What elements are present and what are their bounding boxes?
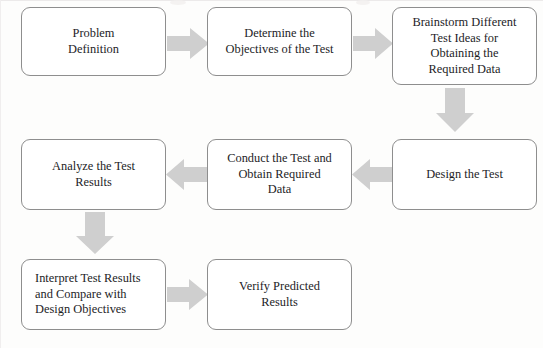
scan-artifact-top-edge <box>0 0 543 1</box>
node-problem-definition[interactable]: Problem Definition <box>21 7 166 76</box>
arrow-analyze-to-interpret <box>76 212 114 254</box>
node-conduct-the-test[interactable]: Conduct the Test and Obtain Required Dat… <box>207 139 352 210</box>
node-design-the-test[interactable]: Design the Test <box>392 139 537 210</box>
scan-artifact-smudge-b <box>356 0 370 5</box>
arrow-design-to-conduct <box>352 159 392 190</box>
arrow-conduct-to-analyze <box>166 159 207 190</box>
arrow-interpret-to-verify <box>167 279 208 310</box>
node-label-conduct-the-test: Conduct the Test and Obtain Required Dat… <box>213 151 346 198</box>
node-brainstorm-test-ideas[interactable]: Brainstorm Different Test Ideas for Obta… <box>392 7 537 85</box>
scan-artifact-smudge-a <box>170 0 186 5</box>
arrow-problem-to-objectives <box>167 28 209 59</box>
node-label-analyze-test-results: Analyze the Test Results <box>27 159 160 190</box>
node-analyze-test-results[interactable]: Analyze the Test Results <box>21 139 166 210</box>
node-interpret-test-results[interactable]: Interpret Test Results and Compare with … <box>21 259 166 330</box>
node-verify-predicted-results[interactable]: Verify Predicted Results <box>207 259 352 330</box>
node-label-interpret-test-results: Interpret Test Results and Compare with … <box>27 271 160 318</box>
node-label-verify-predicted-results: Verify Predicted Results <box>213 279 346 310</box>
node-label-brainstorm-test-ideas: Brainstorm Different Test Ideas for Obta… <box>398 15 531 77</box>
node-determine-objectives[interactable]: Determine the Objectives of the Test <box>207 7 352 76</box>
flowchart-diagram: Problem Definition Determine the Objecti… <box>0 0 543 348</box>
arrow-brainstorm-to-design <box>436 88 474 132</box>
arrow-objectives-to-brainstorm <box>353 28 393 59</box>
node-label-design-the-test: Design the Test <box>398 167 531 183</box>
node-label-problem-definition: Problem Definition <box>27 26 160 57</box>
node-label-determine-objectives: Determine the Objectives of the Test <box>213 26 346 57</box>
scan-artifact-left-edge <box>0 0 1 348</box>
